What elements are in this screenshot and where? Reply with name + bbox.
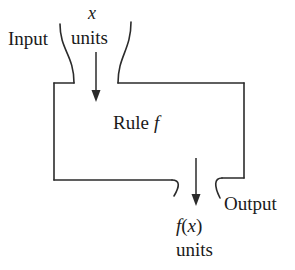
output-arrow-down-icon bbox=[192, 158, 201, 206]
output-units-label: units bbox=[176, 240, 213, 259]
input-label: Input bbox=[8, 29, 48, 48]
function-machine-diagram: Input x units Rulef f(x) units Output bbox=[0, 0, 295, 270]
output-funnel-left-curve bbox=[172, 180, 178, 196]
input-funnel-right-curve bbox=[118, 22, 131, 83]
input-units-label: units bbox=[71, 28, 108, 47]
output-funnel-right-curve bbox=[216, 178, 222, 198]
output-variable-letter: x bbox=[188, 215, 196, 236]
output-label: Output bbox=[224, 194, 277, 213]
output-paren-close: ) bbox=[196, 215, 202, 236]
output-quantity-symbol: f(x) bbox=[176, 216, 202, 235]
input-arrow-down-icon bbox=[92, 52, 101, 102]
input-quantity-symbol: x bbox=[88, 4, 96, 22]
rule-function-symbol: f bbox=[149, 112, 159, 133]
rule-word: Rule bbox=[113, 112, 149, 133]
rule-label: Rulef bbox=[113, 113, 159, 132]
